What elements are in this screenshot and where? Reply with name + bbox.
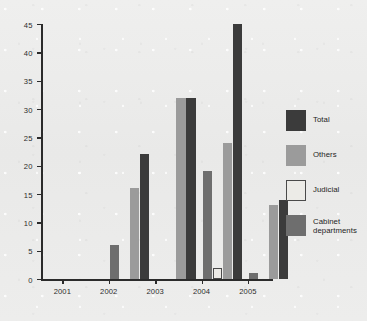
y-tick-0: 0: [37, 279, 42, 280]
x-tick-2005: [248, 279, 249, 284]
x-axis-line: [41, 279, 273, 281]
legend-swatch-others: [286, 145, 306, 166]
y-tick-45: 45: [37, 24, 42, 25]
y-tick-label: 45: [24, 20, 33, 29]
bar-cabinet-2005: [249, 273, 258, 279]
y-tick-label: 20: [24, 162, 33, 171]
bar-others-2005: [269, 205, 278, 279]
y-tick-20: 20: [37, 166, 42, 167]
y-tick-5: 5: [37, 251, 42, 252]
legend-item-total[interactable]: Total: [286, 110, 364, 131]
x-tick-2003: [155, 279, 156, 284]
bar-cabinet-2004: [203, 171, 212, 279]
y-tick-label: 5: [28, 247, 32, 256]
y-tick-10: 10: [37, 222, 42, 223]
chart-legend: TotalOthersJudicialCabinet departments: [286, 110, 364, 250]
x-tick-label-2004: 2004: [193, 287, 210, 296]
bar-total-2002: [140, 154, 149, 279]
y-tick-label: 0: [28, 275, 32, 284]
x-tick-label-2005: 2005: [239, 287, 256, 296]
y-axis-line: [41, 24, 43, 279]
x-tick-2004: [202, 279, 203, 284]
x-tick-label-2003: 2003: [146, 287, 163, 296]
y-tick-25: 25: [37, 137, 42, 138]
legend-label-cabinet: Cabinet departments: [313, 215, 364, 236]
legend-item-judicial[interactable]: Judicial: [286, 180, 364, 201]
y-tick-30: 30: [37, 109, 42, 110]
legend-item-cabinet[interactable]: Cabinet departments: [286, 215, 364, 236]
y-tick-35: 35: [37, 81, 42, 82]
plot-area: 051015202530354045 20012002200320042005: [41, 24, 273, 279]
y-tick-label: 40: [24, 49, 33, 58]
y-tick-15: 15: [37, 194, 42, 195]
x-tick-2001: [62, 279, 63, 284]
bar-others-2004: [223, 143, 232, 279]
legend-label-judicial: Judicial: [313, 180, 339, 194]
bar-judicial-2004: [213, 268, 222, 279]
y-tick-label: 35: [24, 77, 33, 86]
y-tick-label: 15: [24, 190, 33, 199]
legend-swatch-cabinet: [286, 215, 306, 236]
legend-swatch-judicial: [286, 180, 306, 201]
bar-total-2004: [233, 24, 242, 279]
legend-label-others: Others: [313, 145, 337, 159]
legend-item-others[interactable]: Others: [286, 145, 364, 166]
chart-canvas: 051015202530354045 20012002200320042005 …: [0, 0, 367, 321]
y-tick-label: 10: [24, 219, 33, 228]
y-tick-label: 25: [24, 134, 33, 143]
y-tick-label: 30: [24, 105, 33, 114]
bar-others-2003: [176, 98, 185, 279]
x-tick-label-2001: 2001: [54, 287, 71, 296]
x-tick-2002: [109, 279, 110, 284]
bar-total-2003: [186, 98, 195, 279]
y-tick-40: 40: [37, 52, 42, 53]
legend-swatch-total: [286, 110, 306, 131]
bar-others-2002: [130, 188, 139, 279]
legend-label-total: Total: [313, 110, 330, 124]
bar-cabinet-2002: [110, 245, 119, 279]
x-tick-label-2002: 2002: [100, 287, 117, 296]
